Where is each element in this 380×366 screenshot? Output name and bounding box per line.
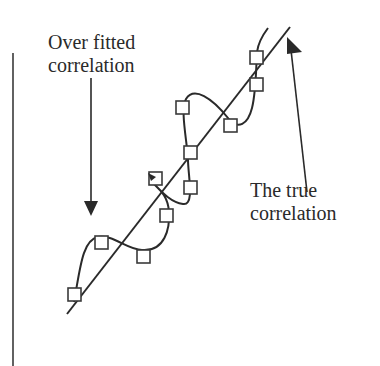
data-point-square	[250, 78, 263, 91]
true-label-line1: The true	[250, 179, 337, 202]
true-arrow	[287, 37, 307, 192]
data-points	[68, 51, 263, 301]
data-point-square	[184, 181, 197, 194]
overfit-arrow	[84, 78, 98, 216]
arrowhead-down-icon	[84, 201, 98, 216]
data-point-square	[95, 236, 108, 249]
overfitting-diagram: Over fitted correlation The true correla…	[0, 0, 380, 366]
data-point-square	[176, 101, 189, 114]
data-point-square	[224, 119, 237, 132]
overfit-label-line1: Over fitted	[48, 31, 135, 54]
data-point-square	[160, 209, 173, 222]
true-label-line2: correlation	[250, 202, 337, 225]
overfit-label-line2: correlation	[48, 54, 135, 77]
arrowhead-up-icon	[287, 37, 302, 54]
data-point-square	[250, 51, 263, 64]
data-point-square	[68, 288, 81, 301]
data-point-square	[184, 146, 197, 159]
overfit-label: Over fitted correlation	[48, 31, 135, 77]
data-point-square	[137, 250, 150, 263]
true-correlation-label: The true correlation	[250, 179, 337, 225]
true-arrow-shaft	[291, 50, 307, 192]
